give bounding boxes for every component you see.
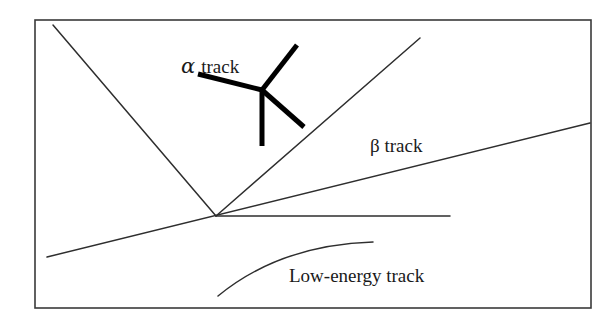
- alpha-arm-upper-right: [262, 45, 297, 90]
- right-diagonal-track: [216, 38, 420, 216]
- beta-track: [47, 123, 590, 257]
- alpha-track-text: track: [201, 56, 239, 77]
- low-energy-track-label: Low-energy track: [289, 265, 425, 286]
- alpha-arm-lower-right: [262, 90, 304, 127]
- alpha-track-label: α track: [181, 54, 240, 78]
- beta-track-label: β track: [370, 135, 423, 156]
- alpha-symbol: α: [181, 54, 195, 78]
- particle-track-diagram: α track β track Low-energy track: [0, 0, 615, 321]
